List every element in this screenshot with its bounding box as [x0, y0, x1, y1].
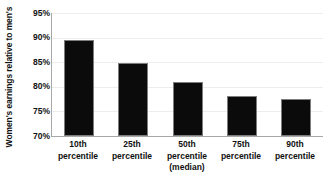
plot-area	[51, 13, 323, 137]
x-axis-category-label-line: percentile	[50, 151, 106, 163]
y-axis-tick-label: 75%	[18, 107, 50, 116]
x-axis-category-label-line: (median)	[159, 162, 215, 174]
x-axis-category-label: 75thpercentile	[213, 139, 269, 162]
bar-series	[52, 13, 323, 136]
x-axis-category-label: 90thpercentile	[267, 139, 323, 162]
bar	[64, 40, 94, 136]
x-axis-category-label-line: percentile	[159, 151, 215, 163]
x-axis-category-label-line: 50th	[159, 139, 215, 151]
x-axis-category-label: 25thpercentile	[104, 139, 160, 162]
y-axis-tick-label: 95%	[18, 9, 50, 18]
x-axis-category-labels: 10thpercentile25thpercentile50thpercenti…	[51, 139, 322, 184]
bar-chart: Women's earnings relative to men's 95%90…	[0, 0, 332, 184]
x-axis-category-label-line: 25th	[104, 139, 160, 151]
x-axis-category-label-line: percentile	[213, 151, 269, 163]
bar	[173, 82, 203, 136]
x-axis-category-label-line: 90th	[267, 139, 323, 151]
x-axis-category-label: 10thpercentile	[50, 139, 106, 162]
bar	[118, 63, 148, 136]
y-axis-tick-label: 85%	[18, 58, 50, 67]
x-axis-category-label-line: percentile	[104, 151, 160, 163]
bar	[227, 96, 257, 136]
y-axis-title: Women's earnings relative to men's	[2, 2, 16, 152]
y-axis-tick-label: 90%	[18, 33, 50, 42]
y-axis-tick-labels: 95%90%85%80%75%70%	[18, 0, 50, 184]
x-axis-category-label-line: 75th	[213, 139, 269, 151]
y-axis-tick-label: 70%	[18, 132, 50, 141]
bar	[281, 99, 311, 136]
x-axis-category-label: 50thpercentile(median)	[159, 139, 215, 174]
x-axis-category-label-line: percentile	[267, 151, 323, 163]
x-axis-category-label-line: 10th	[50, 139, 106, 151]
y-axis-tick-label: 80%	[18, 82, 50, 91]
